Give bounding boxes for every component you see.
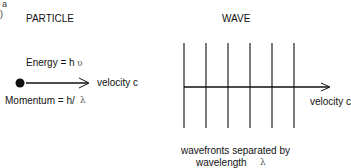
diagram-graphics xyxy=(0,0,351,168)
particle-arrow-icon xyxy=(26,78,89,88)
particle-dot-icon xyxy=(16,79,25,88)
wavefront-lines xyxy=(184,43,294,128)
